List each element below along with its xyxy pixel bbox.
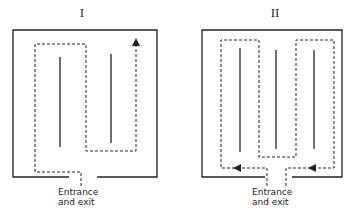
arrow-up-icon — [132, 38, 140, 46]
arrow-left-icon — [233, 164, 241, 172]
entrance-label: Entrance — [58, 187, 99, 197]
entrance-label: Entrance — [252, 187, 293, 197]
arrow-left-icon — [308, 164, 316, 172]
maze-panel-ii: II Entrance and exit — [202, 7, 342, 207]
route-path — [221, 40, 334, 186]
outer-wall — [202, 30, 342, 177]
maze-diagram: I Entrance and exit II Entrance and exit — [0, 0, 360, 217]
panel-title: II — [271, 7, 280, 20]
route-path — [35, 44, 136, 186]
exit-label: and exit — [252, 197, 289, 207]
exit-label: and exit — [58, 197, 95, 207]
maze-panel-i: I Entrance and exit — [13, 7, 157, 207]
panel-title: I — [80, 7, 84, 20]
